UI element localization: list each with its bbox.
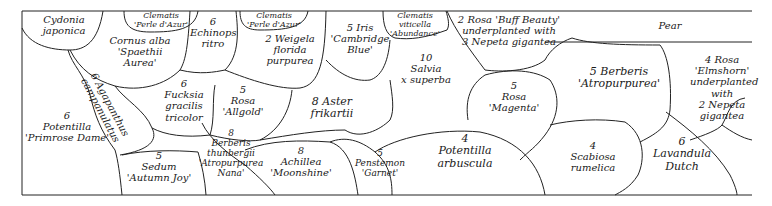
bed-label-clematis-1: Clematis 'Perle d'Azur' — [124, 12, 198, 30]
bed-boundary-scabiosa-top — [550, 120, 625, 125]
bed-label-clematis-2: Clematis 'Perle d'Azur' — [240, 12, 308, 30]
bed-label-rosa-buff-beauty: 2 Rosa 'Buff Beauty' underplanted with 3… — [450, 14, 568, 48]
label-line: Aurea' — [98, 57, 182, 68]
label-line: Berberis — [196, 138, 266, 148]
bed-label-achillea: 8 Achillea 'Moonshine' — [268, 145, 334, 179]
label-line: 'Primrose Dame' — [24, 132, 110, 143]
label-line: 5 Iris — [330, 22, 390, 33]
label-line: Echinops — [190, 27, 236, 38]
label-line: florida — [256, 44, 324, 55]
bed-label-penstemon: 5 Penstemon 'Garnet' — [354, 148, 406, 178]
label-line: 'Autumn Joy' — [124, 172, 194, 183]
label-line: 4 — [560, 140, 626, 151]
label-line: 'Magenta' — [484, 102, 544, 113]
label-line: 5 — [484, 80, 544, 91]
label-line: 8 — [268, 145, 334, 156]
label-line: 'Perle d'Azur' — [240, 21, 308, 30]
label-line: Achillea — [268, 156, 334, 167]
bed-label-rosa-allgold: 5 Rosa 'Allgold' — [218, 84, 268, 118]
label-line: 5 — [124, 150, 194, 161]
label-line: Scabiosa — [560, 151, 626, 162]
label-line: 6 — [158, 78, 210, 89]
label-line: underplanted — [690, 76, 754, 87]
label-line: arbuscula — [430, 158, 500, 170]
label-line: Pear — [640, 20, 700, 31]
bed-label-aster: 8 Aster frikartii — [300, 96, 364, 121]
bed-label-fuchsia: 6 Fucksia gracilis tricolor — [158, 78, 210, 123]
label-line: Cornus alba — [98, 35, 182, 46]
label-line: underplanted with — [450, 25, 568, 36]
bed-label-sedum: 5 Sedum 'Autumn Joy' — [124, 150, 194, 184]
label-line: 3 Nepeta gigantea — [450, 36, 568, 47]
bed-label-cydonia: Cydonia japonica — [24, 14, 104, 36]
label-line: 'Elmshorn' — [690, 65, 754, 76]
label-line: japonica — [24, 25, 104, 36]
label-line: Potentilla — [24, 121, 110, 132]
label-line: 'Atropurpurea — [196, 158, 266, 168]
label-line: 5 — [354, 148, 406, 158]
label-line: rumelica — [560, 162, 626, 173]
label-line: frikartii — [300, 108, 364, 120]
label-line: Sedum — [124, 161, 194, 172]
bed-label-salvia: 10 Salvia x superba — [395, 52, 457, 86]
bed-boundary-rosa-elmshorn-2 — [722, 125, 752, 140]
label-line: 2 Nepeta — [690, 99, 754, 110]
label-line: Dutch — [650, 161, 714, 173]
label-line: Nana' — [196, 168, 266, 178]
label-line: gracilis — [158, 100, 210, 111]
label-line: purpurea — [256, 55, 324, 66]
label-line: 'Garnet' — [354, 168, 406, 178]
bed-label-potentilla-primrose-dame: 6 Potentilla 'Primrose Dame' — [24, 110, 110, 144]
label-line: 'Allgold' — [218, 106, 268, 117]
label-line: 'Atropurpurea' — [574, 78, 664, 90]
label-line: 6 — [24, 110, 110, 121]
bed-label-scabiosa: 4 Scabiosa rumelica — [560, 140, 626, 174]
label-line: 'Moonshine' — [268, 167, 334, 178]
bed-label-berberis-thunbergii: 8 Berberis thunbergii 'Atropurpurea Nana… — [196, 128, 266, 178]
label-line: 'Cambridge — [330, 33, 390, 44]
bed-label-berberis-atropurpurea: 5 Berberis 'Atropurpurea' — [574, 66, 664, 91]
label-line: Cydonia — [24, 14, 104, 25]
label-line: Fucksia — [158, 89, 210, 100]
label-line: Rosa — [484, 91, 544, 102]
label-line: gigantea — [690, 110, 754, 121]
label-line: 2 Weigela — [256, 33, 324, 44]
bed-label-rosa-magenta: 5 Rosa 'Magenta' — [484, 80, 544, 114]
label-line: Blue' — [330, 44, 390, 55]
label-line: 10 — [395, 52, 457, 63]
label-line: 6 — [190, 16, 236, 27]
label-line: 2 Rosa 'Buff Beauty' — [450, 14, 568, 25]
label-line: x superba — [395, 74, 457, 85]
bed-label-clematis-3: Clematis viticella 'Abundance' — [384, 12, 446, 39]
label-line: 'Spaethii — [98, 46, 182, 57]
bed-label-lavandula: 6 Lavandula Dutch — [650, 136, 714, 173]
bed-label-cornus: Cornus alba 'Spaethii Aurea' — [98, 35, 182, 69]
label-line: 5 — [218, 84, 268, 95]
label-line: 'Perle d'Azur' — [124, 21, 198, 30]
label-line: Salvia — [395, 63, 457, 74]
label-line: Potentilla — [430, 145, 500, 157]
label-line: Rosa — [218, 95, 268, 106]
label-line: Lavandula — [650, 148, 714, 160]
bed-label-potentilla-arbuscula: 4 Potentilla arbuscula — [430, 133, 500, 170]
label-line: 4 Rosa — [690, 54, 754, 65]
label-line: with — [690, 88, 754, 99]
label-line: 'Abundance' — [384, 30, 446, 39]
label-line: Penstemon — [354, 158, 406, 168]
bed-label-echinops: 6 Echinops ritro — [190, 16, 236, 50]
bed-label-weigela: 2 Weigela florida purpurea — [256, 33, 324, 67]
label-line: ritro — [190, 38, 236, 49]
bed-label-iris: 5 Iris 'Cambridge Blue' — [330, 22, 390, 56]
bed-label-rosa-elmshorn: 4 Rosa 'Elmshorn' underplanted with 2 Ne… — [690, 54, 754, 121]
bed-label-pear: Pear — [640, 20, 700, 31]
label-line: tricolor — [158, 112, 210, 123]
label-line: thunbergii — [196, 148, 266, 158]
label-line: 8 — [196, 128, 266, 138]
